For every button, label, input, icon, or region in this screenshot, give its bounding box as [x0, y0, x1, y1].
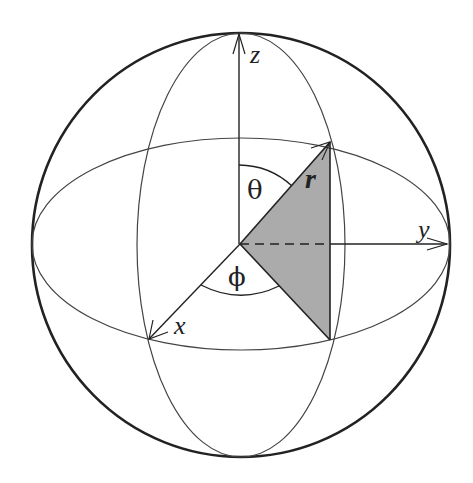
x-axis-label: x — [173, 311, 186, 340]
spherical-coordinates-diagram: z y x r θ ϕ — [0, 0, 473, 483]
radius-label: r — [305, 163, 317, 194]
y-axis-label: y — [415, 215, 430, 244]
theta-label: θ — [247, 175, 263, 205]
x-axis — [149, 244, 240, 339]
z-axis — [233, 34, 245, 244]
shaded-triangle — [240, 142, 330, 340]
phi-label: ϕ — [228, 262, 246, 292]
z-axis-label: z — [249, 40, 260, 69]
